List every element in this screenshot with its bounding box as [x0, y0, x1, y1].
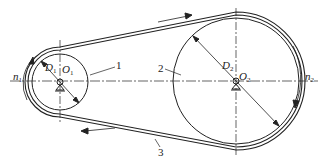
o2-label: O2	[239, 71, 250, 84]
leader-line-1	[90, 67, 115, 75]
arrow-right-icon	[185, 13, 192, 19]
belt-direction-arrow-bottom	[85, 128, 115, 131]
belt-drive-diagram: n1 D1 O1 1 2 D2 O2 n2 3	[0, 0, 323, 166]
label-2: 2	[158, 63, 164, 74]
n1-rotation-arrow-icon	[29, 57, 34, 64]
o1-label: O1	[62, 64, 73, 77]
arrow-left-icon	[81, 128, 88, 134]
d1-label: D1	[45, 62, 56, 75]
diagram-drawing	[0, 0, 323, 166]
n1-label: n1	[13, 71, 22, 84]
d2-label: D2	[222, 60, 233, 73]
n2-label: n2	[305, 71, 314, 84]
belt-direction-arrow-top	[158, 16, 188, 22]
label-3: 3	[158, 147, 164, 158]
label-1: 1	[116, 60, 122, 71]
